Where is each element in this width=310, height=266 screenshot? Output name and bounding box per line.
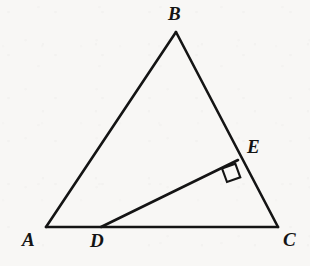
vertex-label-b: B <box>168 4 181 23</box>
geometry-figure: A B C D E <box>0 0 310 266</box>
vertex-label-c: C <box>283 230 296 249</box>
right-angle-marker-icon <box>222 164 240 182</box>
segment-ab <box>46 32 176 227</box>
vertex-label-a: A <box>22 230 35 249</box>
geometry-canvas <box>0 0 310 266</box>
segment-de <box>101 160 238 227</box>
segment-bc <box>176 32 278 227</box>
vertex-label-e: E <box>247 137 260 156</box>
vertex-label-d: D <box>90 231 104 250</box>
